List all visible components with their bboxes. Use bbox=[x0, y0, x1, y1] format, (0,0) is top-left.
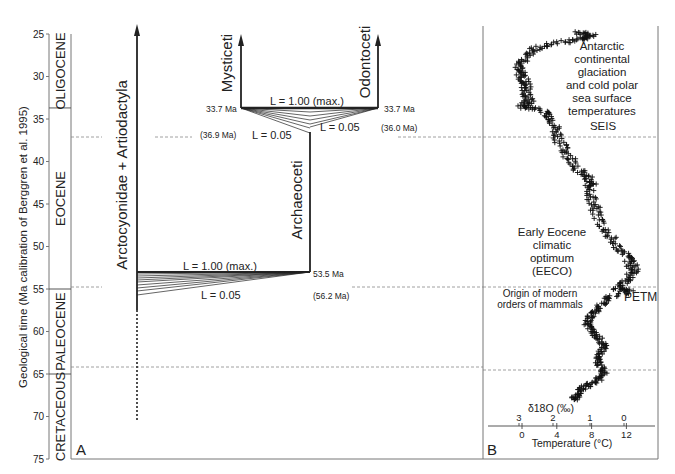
archaeoceti-split-min-label: L = 0.05 bbox=[201, 289, 241, 301]
y-tick-label: 70 bbox=[33, 411, 45, 422]
annotation-eeco-3: optimum bbox=[530, 252, 574, 264]
y-tick-label: 75 bbox=[33, 454, 45, 465]
whale-split-right-alt-age: (36.0 Ma) bbox=[381, 123, 418, 133]
panel-b-origin-annotation: Origin of modern orders of mammals bbox=[497, 288, 583, 310]
whale-split-max-label: L = 1.00 (max.) bbox=[270, 95, 344, 107]
whale-split-min-label-right: L = 0.05 bbox=[320, 121, 360, 133]
annotation-petm: PETM bbox=[624, 290, 657, 304]
epoch-label: EOCENE bbox=[53, 171, 68, 226]
archaeoceti-split-max-label: L = 1.00 (max.) bbox=[183, 260, 257, 272]
archaeoceti-split-age: 53.5 Ma bbox=[313, 269, 344, 279]
annotation-antarctic-2: continental bbox=[574, 53, 630, 65]
y-axis: 2530354045505560657075 bbox=[33, 29, 49, 465]
arrow-up-icon bbox=[375, 34, 381, 46]
annotation-eeco-2: climatic bbox=[533, 239, 572, 251]
epoch-label: PALEOCENE bbox=[53, 292, 68, 371]
y-tick-label: 55 bbox=[33, 284, 45, 295]
lineage-label-archaeoceti: Archaeoceti bbox=[288, 160, 305, 239]
whale-split-min-label-left: L = 0.05 bbox=[252, 129, 292, 141]
panel-b-label: B bbox=[487, 441, 497, 458]
d18o-tick-label: 1 bbox=[587, 412, 592, 423]
temperature-tick-label: 12 bbox=[621, 429, 632, 440]
whale-split-left-alt-age: (36.9 Ma) bbox=[200, 130, 237, 140]
figure: Geological time (Ma calibration of Bergg… bbox=[0, 0, 675, 474]
annotation-antarctic-6: temperatures bbox=[568, 105, 636, 117]
temperature-axis-label: Temperature (°C) bbox=[532, 437, 613, 449]
y-tick-label: 50 bbox=[33, 241, 45, 252]
y-axis-label: Geological time (Ma calibration of Bergg… bbox=[17, 106, 29, 388]
phylogeny bbox=[134, 24, 381, 422]
annotation-antarctic-4: and cold polar bbox=[566, 79, 638, 91]
whale-split-left-age: 33.7 Ma bbox=[206, 104, 237, 114]
d18o-tick-label: 3 bbox=[516, 412, 521, 423]
annotation-origin-1: Origin of modern bbox=[503, 288, 577, 299]
lineage-label-odontoceti: Odontoceti bbox=[356, 26, 373, 99]
epoch-column: OLIGOCENEEOCENEPALEOCENECRETACEOUS bbox=[49, 32, 71, 461]
epoch-label: CRETACEOUS bbox=[53, 372, 68, 462]
panel-a-labels: Arctocyonidae + Artiodactyla Archaeoceti… bbox=[113, 26, 418, 301]
y-tick-label: 40 bbox=[33, 156, 45, 167]
arrow-up-icon bbox=[238, 34, 244, 46]
annotation-antarctic-1: Antarctic bbox=[580, 40, 625, 52]
panel-a-label: A bbox=[76, 441, 86, 458]
d18o-tick-label: 0 bbox=[621, 412, 626, 423]
lineage-label-arctocyonidae: Arctocyonidae + Artiodactyla bbox=[113, 80, 130, 270]
temperature-axis: 048123210 δ18O (‰) Temperature (°C) bbox=[488, 402, 655, 449]
annotation-eeco-1: Early Eocene bbox=[518, 226, 586, 238]
annotation-eeco-4: (EECO) bbox=[532, 265, 572, 277]
temperature-tick-label: 0 bbox=[519, 429, 524, 440]
annotation-seis: SEIS bbox=[590, 120, 617, 132]
epoch-label: OLIGOCENE bbox=[53, 32, 68, 110]
y-tick-label: 65 bbox=[33, 369, 45, 380]
lineage-label-mysticeti: Mysticeti bbox=[218, 34, 235, 92]
y-tick-label: 25 bbox=[33, 29, 45, 40]
y-tick-label: 45 bbox=[33, 199, 45, 210]
arrow-up-icon bbox=[134, 24, 140, 36]
archaeoceti-split-alt-age: (56.2 Ma) bbox=[313, 291, 350, 301]
whale-split-right-age: 33.7 Ma bbox=[384, 104, 415, 114]
y-tick-label: 30 bbox=[33, 71, 45, 82]
annotation-antarctic-5: sea surface bbox=[572, 92, 631, 104]
panel-b: B Antarctic continental glaciation and c… bbox=[483, 26, 658, 459]
y-tick-label: 35 bbox=[33, 114, 45, 125]
d18o-axis-label: δ18O (‰) bbox=[528, 402, 574, 414]
y-tick-label: 60 bbox=[33, 326, 45, 337]
panel-a: A bbox=[71, 441, 483, 459]
annotation-antarctic-3: glaciation bbox=[578, 66, 627, 78]
annotation-origin-2: orders of mammals bbox=[497, 299, 583, 310]
